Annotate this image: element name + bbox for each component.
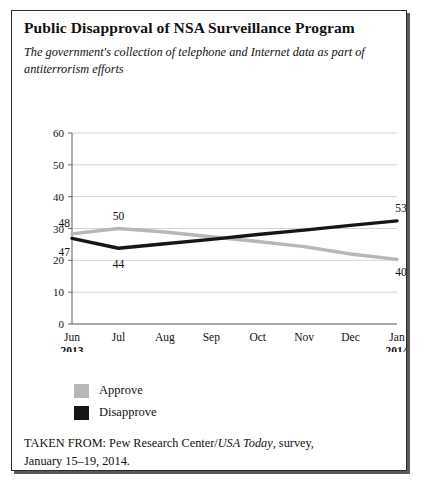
svg-text:60: 60 xyxy=(53,127,65,139)
svg-text:50: 50 xyxy=(53,159,65,171)
svg-text:40: 40 xyxy=(53,191,65,203)
chart-subtitle: The government's collection of telephone… xyxy=(24,44,390,79)
legend-label-disapprove: Disapprove xyxy=(99,406,157,419)
source-suffix: , survey, xyxy=(273,436,314,450)
data-series-lines xyxy=(72,221,397,260)
svg-text:Dec: Dec xyxy=(341,331,360,343)
chart-plot-area: 0102030405060 485040474453 Jun2013JulAug… xyxy=(12,107,406,352)
legend-item-approve: Approve xyxy=(74,381,157,400)
legend-swatch-approve xyxy=(74,384,89,398)
svg-text:Jun: Jun xyxy=(64,331,80,343)
svg-text:Jan: Jan xyxy=(389,331,405,343)
svg-text:Oct: Oct xyxy=(249,331,266,343)
x-axis-tick-labels: Jun2013JulAugSepOctNovDecJan2014 xyxy=(61,331,407,352)
source-prefix: TAKEN FROM: Pew Research Center/ xyxy=(24,436,218,450)
svg-text:Aug: Aug xyxy=(155,331,175,344)
svg-text:48: 48 xyxy=(59,217,71,229)
source-note: TAKEN FROM: Pew Research Center/USA Toda… xyxy=(24,435,396,471)
source-publication: USA Today xyxy=(218,436,273,450)
svg-text:44: 44 xyxy=(113,258,125,270)
svg-text:50: 50 xyxy=(113,210,125,222)
svg-text:10: 10 xyxy=(53,286,65,298)
svg-text:53: 53 xyxy=(395,202,406,214)
legend-swatch-disapprove xyxy=(74,406,89,420)
svg-text:Jul: Jul xyxy=(112,331,125,343)
svg-text:Sep: Sep xyxy=(203,331,221,344)
line-chart-svg: 0102030405060 485040474453 Jun2013JulAug… xyxy=(12,107,406,352)
chart-legend: Approve Disapprove xyxy=(74,381,157,425)
svg-text:2014: 2014 xyxy=(386,345,407,352)
svg-text:0: 0 xyxy=(59,318,65,330)
source-date: January 15–19, 2014. xyxy=(24,454,130,468)
legend-item-disapprove: Disapprove xyxy=(74,403,157,422)
legend-label-approve: Approve xyxy=(99,384,143,397)
page-title: Public Disapproval of NSA Surveillance P… xyxy=(24,19,396,37)
figure-frame: Public Disapproval of NSA Surveillance P… xyxy=(11,10,407,471)
svg-text:47: 47 xyxy=(59,246,71,258)
svg-text:2013: 2013 xyxy=(61,345,84,352)
svg-text:40: 40 xyxy=(395,266,406,278)
svg-text:Nov: Nov xyxy=(294,331,314,343)
